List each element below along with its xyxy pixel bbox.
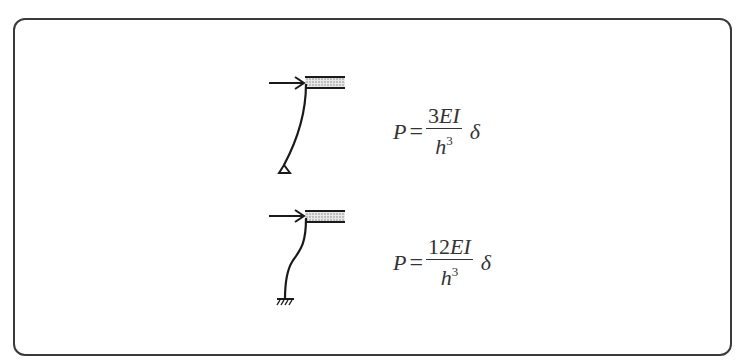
equals-sign: =: [409, 118, 423, 145]
pin-support-icon: [279, 165, 290, 173]
numerator: 12EI: [426, 235, 473, 260]
formula-pinned: P = 3EI h3 δ: [393, 104, 480, 159]
load-arrow-1-icon: [269, 77, 304, 89]
coefficient: 12: [428, 234, 450, 259]
numerator-vars: EI: [450, 234, 471, 259]
pinned-column-diagram: [269, 77, 345, 173]
deflected-column-1: [284, 84, 306, 165]
formula-lhs: P: [393, 250, 406, 276]
denominator: h3: [441, 260, 459, 290]
deflection-symbol: δ: [481, 250, 491, 276]
formula-fixed: P = 12EI h3 δ: [393, 235, 491, 290]
fraction: 12EI h3: [426, 235, 473, 290]
exponent: 3: [446, 133, 453, 148]
equals-sign: =: [409, 249, 423, 276]
exponent: 3: [452, 264, 459, 279]
denominator-var: h: [435, 134, 446, 159]
beam-1: [305, 77, 345, 88]
column-diagrams: [0, 0, 736, 362]
formula-lhs: P: [393, 119, 406, 145]
coefficient: 3: [428, 103, 439, 128]
denominator: h3: [435, 129, 453, 159]
numerator: 3EI: [426, 104, 462, 129]
deflected-column-2: [285, 218, 306, 299]
deflection-symbol: δ: [470, 119, 480, 145]
fraction: 3EI h3: [426, 104, 462, 159]
beam-2: [305, 211, 345, 222]
fixed-column-diagram: [269, 210, 345, 305]
fixed-support-icon: [277, 299, 294, 305]
load-arrow-2-icon: [269, 210, 304, 222]
numerator-vars: EI: [439, 103, 460, 128]
denominator-var: h: [441, 265, 452, 290]
